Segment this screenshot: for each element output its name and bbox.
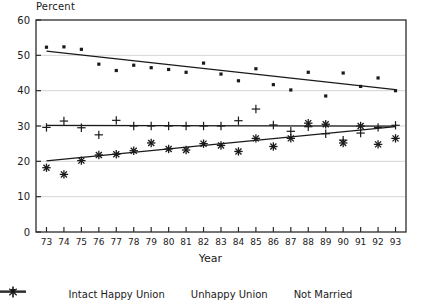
svg-text:84: 84: [233, 237, 245, 247]
svg-text:60: 60: [17, 15, 30, 26]
svg-text:92: 92: [372, 237, 383, 247]
svg-text:78: 78: [128, 237, 140, 247]
chart-legend: Intact Happy Union Unhappy Union Not Mar…: [0, 286, 421, 302]
svg-text:91: 91: [355, 237, 366, 247]
svg-text:50: 50: [17, 50, 30, 61]
chart-container: Percent 01020304050607374757677787980818…: [0, 0, 421, 303]
svg-text:79: 79: [145, 237, 157, 247]
svg-text:82: 82: [198, 237, 209, 247]
svg-text:89: 89: [320, 237, 332, 247]
svg-text:75: 75: [76, 237, 87, 247]
legend-label: Not Married: [294, 289, 353, 300]
asterisk-marker-icon: [0, 286, 26, 298]
svg-text:90: 90: [337, 237, 349, 247]
svg-text:86: 86: [268, 237, 280, 247]
svg-text:30: 30: [17, 121, 30, 132]
legend-label: Unhappy Union: [191, 289, 268, 300]
legend-item-unhappy-union: Unhappy Union: [191, 289, 268, 300]
svg-text:80: 80: [163, 237, 175, 247]
legend-item-not-married: Not Married: [294, 289, 353, 300]
svg-text:87: 87: [285, 237, 296, 247]
svg-text:74: 74: [58, 237, 70, 247]
legend-label: Intact Happy Union: [69, 289, 165, 300]
svg-text:88: 88: [303, 237, 315, 247]
svg-text:40: 40: [17, 85, 30, 96]
x-axis-title: Year: [0, 252, 421, 265]
svg-text:0: 0: [24, 227, 30, 238]
svg-text:10: 10: [17, 191, 30, 202]
svg-text:93: 93: [390, 237, 401, 247]
svg-text:73: 73: [41, 237, 52, 247]
svg-text:20: 20: [17, 156, 30, 167]
svg-text:76: 76: [93, 237, 105, 247]
svg-text:77: 77: [111, 237, 122, 247]
svg-text:81: 81: [180, 237, 191, 247]
svg-text:83: 83: [215, 237, 226, 247]
svg-text:85: 85: [250, 237, 261, 247]
legend-item-intact-happy-union: Intact Happy Union: [69, 289, 165, 300]
